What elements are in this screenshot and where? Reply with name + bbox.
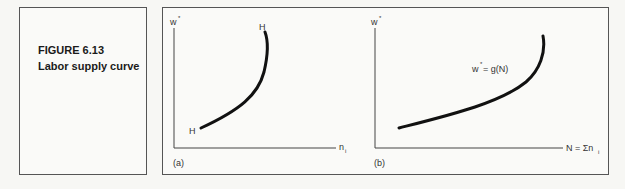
panel-b-supply-curve <box>399 36 544 128</box>
panel-a-x-label: n <box>339 142 344 152</box>
svg-text:*: * <box>379 15 382 21</box>
svg-text:i: i <box>598 149 599 155</box>
panel-a-supply-curve <box>201 32 267 128</box>
svg-text:= g(N): = g(N) <box>483 64 508 74</box>
panel-a-y-label: w <box>169 17 177 27</box>
panel-b: w * N = Σn i w * = g(N) (b) <box>370 15 599 168</box>
panel-b-y-label: w <box>370 17 378 27</box>
curve-label-h-bottom: H <box>189 126 196 136</box>
curve-label-h-top: H <box>259 22 266 32</box>
svg-text:*: * <box>178 15 181 21</box>
charts-canvas: w * n i H H (a) w * N = Σn i w * = g(N) … <box>0 0 625 189</box>
panel-b-label: (b) <box>374 158 385 168</box>
curve-annotation: w <box>471 64 479 74</box>
panel-a: w * n i H H (a) <box>169 15 346 168</box>
panel-a-label: (a) <box>173 158 184 168</box>
panel-b-x-label: N = Σn <box>566 143 593 153</box>
svg-text:i: i <box>345 148 346 154</box>
